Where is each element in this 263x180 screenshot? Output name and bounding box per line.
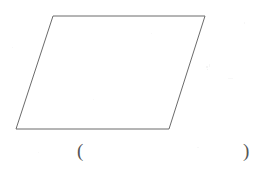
answer-blank-open-paren: (: [77, 141, 83, 160]
parallelogram-outline: [16, 16, 205, 129]
answer-blank-close-paren: ): [243, 141, 249, 160]
figure-page: ( ): [0, 0, 263, 180]
parallelogram-figure: [0, 0, 263, 180]
